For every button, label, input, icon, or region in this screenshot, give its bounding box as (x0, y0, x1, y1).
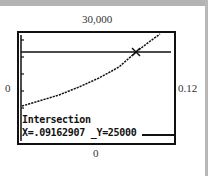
top-border-bar (0, 0, 208, 6)
mode-title: Intersection (22, 114, 91, 125)
curve-line (22, 34, 160, 106)
calculator-screen: Intersection X=.09162907 _Y=25000 (17, 31, 176, 145)
x-value: X=.09162907 (22, 127, 85, 138)
ymax-label: 30,000 (82, 14, 112, 25)
y-value: Y=25000 (96, 127, 136, 138)
xmax-label: 0.12 (178, 83, 197, 94)
readout: Intersection X=.09162907 _Y=25000 (22, 113, 176, 139)
cursor-underline (142, 126, 176, 136)
ymin-label: 0 (93, 148, 99, 159)
right-border-bar (205, 0, 208, 176)
xmin-label: 0 (5, 83, 11, 94)
